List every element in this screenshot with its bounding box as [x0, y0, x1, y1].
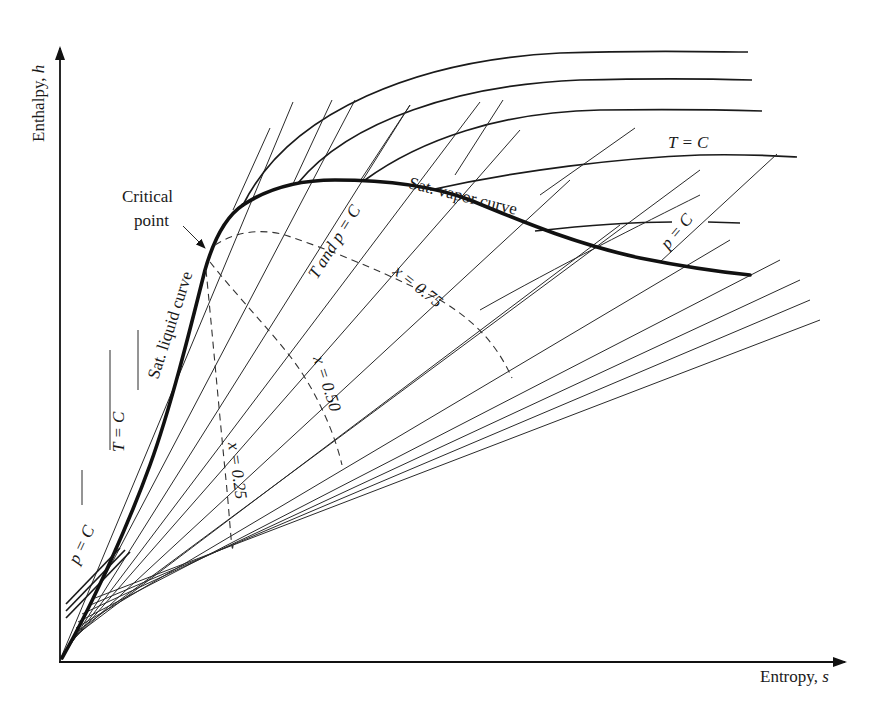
superheated-isotherms: [243, 51, 797, 231]
critical-point-label-line2: point: [134, 211, 169, 230]
quality-050-label: x = 0.50: [309, 352, 345, 414]
quality-line-075: [215, 232, 512, 378]
y-axis-label: Enthalpy, h: [29, 65, 48, 142]
quality-line-025: [206, 270, 233, 548]
compressed-liquid-lines: [66, 330, 138, 618]
quality-025-label: x = 0.25: [224, 440, 251, 500]
x-axis-label: Entropy, s: [760, 667, 829, 686]
t-const-upper-label: T = C: [668, 133, 709, 152]
p-const-left-label: p = C: [64, 522, 99, 568]
t-and-p-const-label: T and p = C: [304, 201, 364, 282]
quality-075-label: x = 0.75: [389, 261, 447, 312]
t-const-left-label: T = C: [109, 411, 128, 452]
sat-liquid-curve-label: Sat. liquid curve: [144, 269, 197, 381]
sat-vapor-curve-label: Sat. vapor curve: [407, 173, 519, 218]
critical-point-arrow: [183, 226, 205, 248]
mollier-diagram: Enthalpy, h Entropy, s: [0, 0, 879, 704]
critical-point-annotation: Critical point: [122, 187, 205, 248]
quality-lines: [206, 232, 512, 549]
critical-point-label-line1: Critical: [122, 187, 173, 206]
